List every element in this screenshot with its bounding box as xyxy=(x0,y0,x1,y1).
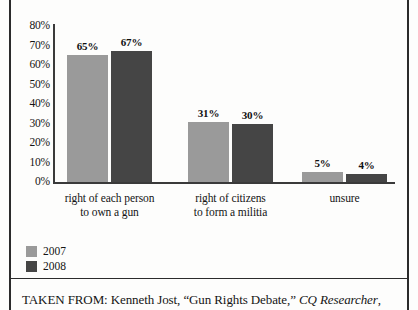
legend-item-label: 2008 xyxy=(43,261,66,273)
legend-item: 2008 xyxy=(26,260,66,273)
caption-suffix: , xyxy=(378,292,381,307)
bar-value-label: 4% xyxy=(337,160,397,171)
category-label-line: right of each person xyxy=(40,192,180,206)
x-axis-line xyxy=(53,182,395,184)
bar xyxy=(111,51,152,182)
y-axis-tick-label: 30% xyxy=(2,118,50,130)
category-label-line: to form a militia xyxy=(161,206,301,220)
y-axis-line xyxy=(53,24,55,183)
bar xyxy=(188,122,229,182)
bar xyxy=(302,172,343,182)
figure-caption: TAKEN FROM: Kenneth Jost, “Gun Rights De… xyxy=(22,292,400,307)
x-axis-category-label: unsure xyxy=(275,192,415,206)
legend-item-label: 2007 xyxy=(43,246,66,258)
y-axis-tick-label: 60% xyxy=(2,59,50,71)
legend-color-swatch xyxy=(26,261,37,272)
bar-value-label: 67% xyxy=(102,37,162,48)
y-axis-tick-label: 40% xyxy=(2,98,50,110)
y-axis-tick-label: 20% xyxy=(2,137,50,149)
bar-chart: 80%70%60%50%40%30%20%10%0% 65%67%31%30%5… xyxy=(0,0,418,225)
y-axis-tick-label: 70% xyxy=(2,40,50,52)
category-label-line: to own a gun xyxy=(40,206,180,220)
legend-color-swatch xyxy=(26,246,37,257)
caption-prefix: TAKEN FROM: Kenneth Jost, “Gun Rights De… xyxy=(22,292,299,307)
y-axis-tick-label: 10% xyxy=(2,157,50,169)
caption-source-title: CQ Researcher xyxy=(299,292,378,307)
y-axis-tick-label: 80% xyxy=(2,20,50,32)
bar-value-label: 30% xyxy=(223,110,283,121)
category-label-line: unsure xyxy=(275,192,415,206)
legend-item: 2007 xyxy=(26,245,66,258)
bar xyxy=(67,55,108,182)
x-axis-category-label: right of each personto own a gun xyxy=(40,192,180,219)
figure-page: 80%70%60%50%40%30%20%10%0% 65%67%31%30%5… xyxy=(0,0,418,310)
bar xyxy=(346,174,387,182)
bar xyxy=(232,124,273,183)
y-axis-tick-label: 0% xyxy=(2,176,50,188)
y-axis-tick-label: 50% xyxy=(2,79,50,91)
caption-divider-rule xyxy=(11,278,407,279)
chart-legend: 20072008 xyxy=(26,245,66,275)
